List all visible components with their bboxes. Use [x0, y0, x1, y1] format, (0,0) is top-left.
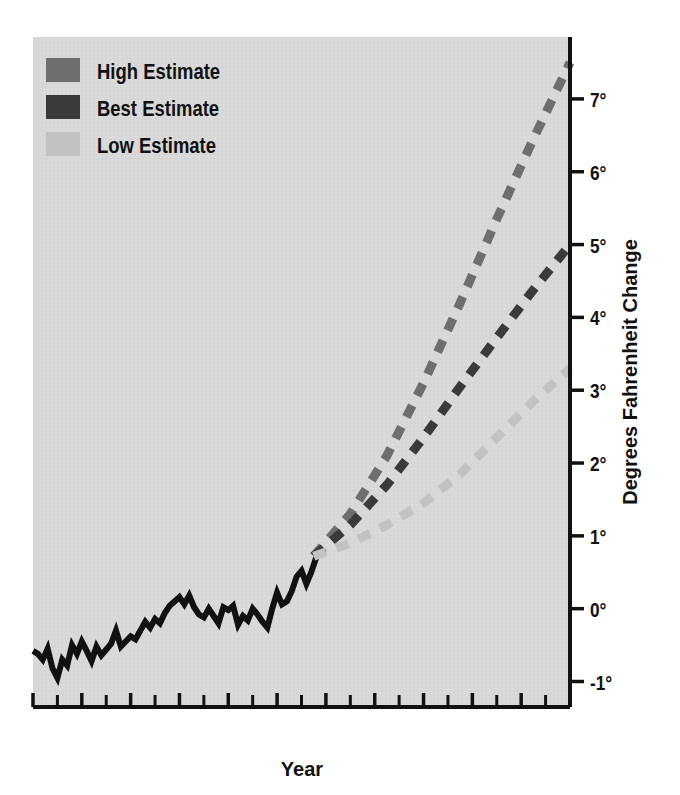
y-tick-label: 4° [590, 307, 606, 330]
legend-swatch [46, 58, 80, 82]
legend-label: Best Estimate [97, 97, 219, 121]
x-axis-tick-labels: 18801900'20'40'60'802000'20'40'60'802100 [0, 0, 18, 4]
y-tick-label: 0° [590, 598, 606, 621]
legend: High EstimateBest EstimateLow Estimate [46, 58, 220, 157]
y-tick-label: 3° [590, 380, 606, 403]
x-axis-title: Year [281, 758, 323, 780]
y-tick-label: -1° [590, 671, 612, 694]
y-axis-tick-labels: -1°0°1°2°3°4°5°6°7° [590, 88, 612, 694]
y-axis-title: Degrees Fahrenheit Change [619, 239, 641, 505]
y-axis-ticks [570, 99, 584, 682]
y-tick-label: 5° [590, 234, 606, 257]
y-tick-label: 2° [590, 452, 606, 475]
y-tick-label: 7° [590, 88, 606, 111]
climate-projection-chart: 18801900'20'40'60'802000'20'40'60'802100… [0, 0, 680, 795]
y-tick-label: 6° [590, 161, 606, 184]
x-tick-label: 2100 [0, 0, 18, 4]
legend-swatch [46, 95, 80, 119]
y-tick-label: 1° [590, 525, 606, 548]
legend-label: High Estimate [97, 60, 220, 84]
chart-figure: 18801900'20'40'60'802000'20'40'60'802100… [0, 0, 680, 795]
legend-swatch [46, 132, 80, 156]
legend-label: Low Estimate [97, 134, 216, 158]
